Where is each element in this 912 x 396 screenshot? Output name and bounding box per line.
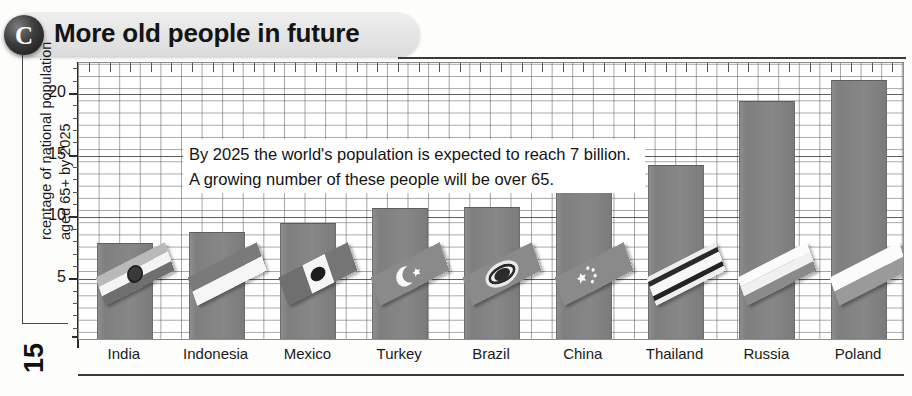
page-title: More old people in future — [54, 18, 360, 49]
y-tick-label-20: 20 — [20, 83, 66, 101]
x-axis-label-india: India — [78, 345, 170, 362]
y-tick-15 — [69, 155, 78, 157]
x-axis-baseline — [78, 374, 904, 376]
page-root: 15 C More old people in future rcentage … — [0, 0, 912, 396]
chart-plot-area: By 2025 the world's population is expect… — [78, 62, 904, 340]
x-axis-label-poland: Poland — [812, 345, 904, 362]
annotation-line-2: A growing number of these people will be… — [189, 167, 639, 192]
y-tick-5 — [69, 278, 78, 280]
x-axis-label-china: China — [537, 345, 629, 362]
x-axis-label-indonesia: Indonesia — [170, 345, 262, 362]
x-axis-labels: IndiaIndonesiaMexicoTurkeyBrazilChinaTha… — [78, 341, 904, 371]
y-tick-label-5: 5 — [20, 268, 66, 286]
chart-annotation: By 2025 the world's population is expect… — [183, 139, 645, 193]
y-tick-label-10: 10 — [20, 206, 66, 224]
y-tick-10 — [69, 216, 78, 218]
x-axis-label-turkey: Turkey — [353, 345, 445, 362]
x-axis-label-russia: Russia — [720, 345, 812, 362]
y-tick-label-15: 15 — [20, 145, 66, 163]
x-axis-label-mexico: Mexico — [262, 345, 354, 362]
annotation-line-1: By 2025 the world's population is expect… — [189, 142, 639, 167]
flag-emblem-globe-inner — [493, 265, 512, 283]
y-axis-tick-labels: 5101520 — [14, 0, 66, 396]
title-underline — [398, 57, 906, 59]
x-axis-label-brazil: Brazil — [445, 345, 537, 362]
y-tick-20 — [69, 93, 78, 95]
x-axis-label-thailand: Thailand — [629, 345, 721, 362]
